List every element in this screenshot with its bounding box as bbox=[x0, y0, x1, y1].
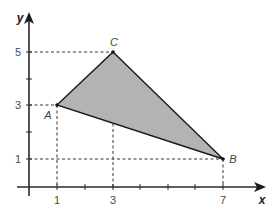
y-tick-label-3: 3 bbox=[15, 99, 21, 111]
point-a bbox=[55, 103, 59, 107]
x-tick-label-1: 1 bbox=[54, 194, 60, 206]
label-b: B bbox=[229, 153, 236, 165]
x-tick-label-3: 3 bbox=[110, 194, 116, 206]
label-a: A bbox=[43, 109, 51, 121]
coordinate-diagram: 1 3 7 1 3 5 x y A B C bbox=[0, 0, 274, 214]
x-tick-label-7: 7 bbox=[220, 194, 226, 206]
y-tick-label-5: 5 bbox=[15, 46, 21, 58]
x-axis-label: x bbox=[258, 193, 267, 207]
point-b bbox=[221, 157, 225, 161]
y-tick-label-1: 1 bbox=[15, 153, 21, 165]
point-c bbox=[111, 50, 115, 54]
triangle-abc bbox=[57, 52, 223, 159]
y-axis-label: y bbox=[16, 11, 25, 25]
label-c: C bbox=[110, 36, 118, 48]
